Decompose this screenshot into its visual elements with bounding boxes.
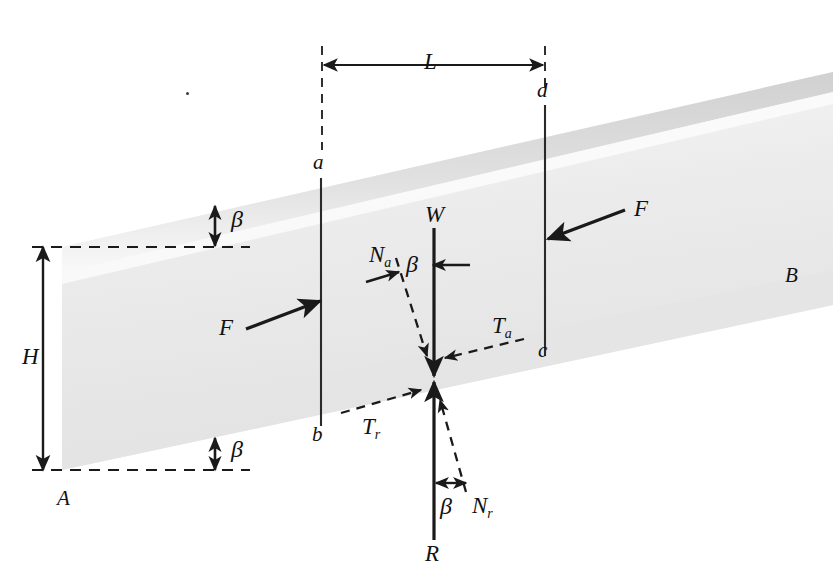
corner-label-B: B	[785, 265, 798, 286]
tangential-reactive-label: Tr	[362, 415, 380, 438]
length-label-L: L	[424, 50, 437, 73]
beta-label-top: β	[231, 207, 243, 231]
slab-body	[62, 72, 833, 470]
normal-active-subscript: a	[384, 255, 391, 270]
normal-active-main: N	[369, 242, 384, 267]
tangential-active-label: Ta	[492, 314, 512, 337]
height-label-H: H	[22, 345, 39, 368]
beta-label-lower-center: β	[440, 494, 452, 518]
tangential-active-main: T	[492, 313, 505, 338]
tangential-reactive-main: T	[362, 414, 375, 439]
figure-canvas: A B a b c d H L W R F F Na Nr Ta Tr β β …	[0, 0, 833, 578]
normal-reactive-main: N	[472, 493, 487, 518]
vertex-label-b: b	[312, 424, 323, 445]
force-Nr-arrow	[440, 400, 466, 492]
weight-label-W: W	[425, 203, 444, 226]
force-label-F-left: F	[219, 316, 233, 339]
beta-label-upper-center: β	[406, 252, 418, 276]
force-label-F-right: F	[634, 197, 648, 220]
tangential-active-subscript: a	[505, 326, 512, 341]
normal-reactive-subscript: r	[487, 506, 492, 521]
beta-label-bottom: β	[231, 437, 243, 461]
normal-active-label: Na	[369, 243, 391, 266]
force-diagram-svg	[0, 0, 833, 578]
vertex-label-d: d	[537, 80, 548, 101]
corner-label-A: A	[57, 488, 70, 509]
scan-artifact-speck	[186, 92, 189, 95]
force-Nr	[440, 400, 466, 492]
vertex-label-a: a	[313, 152, 324, 173]
reaction-label-R: R	[425, 542, 439, 565]
tangential-reactive-subscript: r	[375, 427, 380, 442]
normal-reactive-label: Nr	[472, 494, 493, 517]
vertex-label-c: c	[538, 340, 547, 361]
